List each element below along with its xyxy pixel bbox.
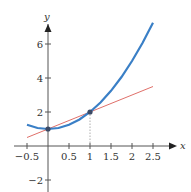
x-tick-label: 2 — [129, 151, 135, 162]
y-tick-label: 4 — [37, 73, 43, 84]
x-tick-label: 0.5 — [61, 151, 77, 162]
x-tick-label: 1.5 — [103, 151, 119, 162]
x-axis-arrow-icon — [169, 143, 177, 150]
x-tick-label: 2.5 — [145, 151, 161, 162]
y-tick-label: −2 — [28, 175, 43, 186]
chart: x y −0.50.511.522.5−2246 — [0, 0, 191, 192]
x-axis-label: x — [180, 140, 186, 151]
y-tick-label: 6 — [37, 39, 43, 50]
y-tick-label: 2 — [37, 107, 43, 118]
y-axis-arrow-icon — [45, 24, 52, 32]
x-tick-label: −0.5 — [15, 151, 39, 162]
y-axis-label: y — [43, 11, 50, 22]
data-point — [45, 126, 50, 131]
x-tick-label: 1 — [87, 151, 93, 162]
data-point — [87, 109, 92, 114]
